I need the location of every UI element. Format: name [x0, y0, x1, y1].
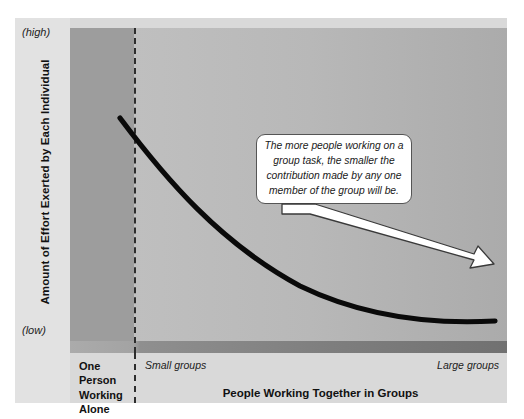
x-axis-large-groups-label: Large groups: [437, 359, 499, 371]
y-axis-high-tick-label: (high): [22, 26, 50, 38]
x-axis-solo-label: One PersonWorkingAlone: [79, 359, 139, 416]
x-axis: One PersonWorkingAlone Small groups Larg…: [70, 353, 507, 403]
plot-area: The more people working on a group task,…: [70, 28, 507, 353]
annotation-arrow: [70, 28, 507, 353]
figure-panel: (high) (low) Amount of Effort Exerted by…: [15, 18, 507, 403]
y-axis-low-tick-label: (low): [22, 324, 46, 336]
y-axis-title: Amount of Effort Exerted by Each Individ…: [39, 57, 51, 307]
y-axis: (high) (low) Amount of Effort Exerted by…: [15, 18, 70, 403]
x-axis-small-groups-label: Small groups: [145, 359, 206, 371]
chart-figure: (high) (low) Amount of Effort Exerted by…: [0, 0, 524, 419]
x-axis-title: People Working Together in Groups: [134, 387, 507, 399]
